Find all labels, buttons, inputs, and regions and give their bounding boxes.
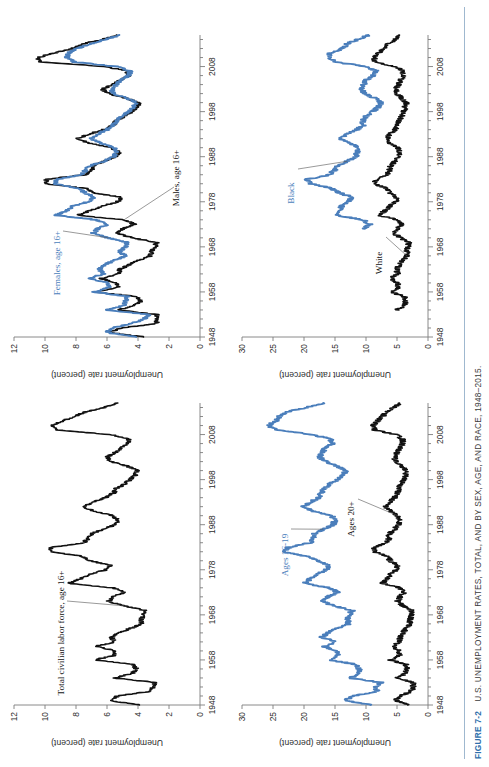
x-tick-label: 1958	[207, 650, 217, 669]
x-tick-label: 1968	[435, 237, 445, 256]
y-tick-label: 12	[9, 712, 19, 722]
plot-area-total: 0246810121948195819681978198819982008Tot…	[4, 393, 226, 751]
x-tick-label: 1968	[435, 605, 445, 624]
y-tick-label: 20	[299, 712, 309, 722]
x-tick-label: 1948	[435, 695, 445, 714]
x-tick-label: 1978	[207, 560, 217, 579]
x-tick-label: 1978	[207, 192, 217, 211]
y-tick-label: 6	[102, 712, 112, 717]
series-line-ages-20	[371, 403, 416, 705]
y-axis-title: Unemployment rate (percent)	[279, 370, 391, 380]
figure-caption-text: U.S. UNEMPLOYMENT RATES, TOTAL, AND BY S…	[473, 366, 483, 702]
x-tick-label: 1948	[435, 327, 445, 346]
y-tick-label: 0	[195, 344, 205, 349]
y-tick-label: 10	[40, 344, 50, 354]
chart-svg-total: 0246810121948195819681978198819982008Tot…	[4, 393, 226, 751]
y-tick-label: 10	[361, 344, 371, 354]
y-tick-label: 8	[71, 712, 81, 717]
y-tick-label: 15	[330, 712, 340, 722]
y-tick-label: 4	[133, 712, 143, 717]
y-tick-label: 5	[392, 712, 402, 717]
y-tick-label: 0	[195, 712, 205, 717]
series-annotation-label: Ages 20+	[346, 501, 356, 537]
x-tick-label: 1958	[435, 282, 445, 301]
series-annotation-label: White	[374, 252, 384, 274]
y-tick-label: 25	[268, 344, 278, 354]
y-tick-label: 2	[164, 712, 174, 717]
y-tick-label: 2	[164, 344, 174, 349]
x-tick-label: 1958	[435, 650, 445, 669]
x-tick-label: 1968	[207, 605, 217, 624]
chart-panel-race: 0510152025301948195819681978198819982008…	[232, 25, 454, 383]
plot-area-age: 0510152025301948195819681978198819982008…	[232, 393, 454, 751]
x-tick-label: 1978	[435, 560, 445, 579]
y-tick-label: 25	[268, 712, 278, 722]
x-tick-label: 2008	[207, 425, 217, 444]
y-tick-label: 5	[392, 344, 402, 349]
y-tick-label: 10	[361, 712, 371, 722]
chart-panel-age: 0510152025301948195819681978198819982008…	[232, 393, 454, 751]
y-tick-label: 30	[237, 344, 247, 354]
y-axis-title: Unemployment rate (percent)	[51, 738, 163, 748]
y-tick-label: 15	[330, 344, 340, 354]
y-axis-title: Unemployment rate (percent)	[51, 370, 163, 380]
figure-number: FIGURE 7-2	[473, 711, 483, 759]
x-tick-label: 1998	[207, 102, 217, 121]
y-tick-label: 0	[423, 344, 433, 349]
caption-divider	[464, 7, 465, 759]
plot-area-sex: 0246810121948195819681978198819982008Fem…	[4, 25, 226, 383]
x-tick-label: 2008	[435, 425, 445, 444]
x-tick-label: 1988	[207, 147, 217, 166]
rotated-page-container: 0246810121948195819681978198819982008Tot…	[0, 0, 489, 767]
figure-sheet: 0246810121948195819681978198819982008Tot…	[0, 0, 489, 767]
y-tick-label: 0	[423, 712, 433, 717]
x-tick-label: 1998	[435, 102, 445, 121]
figure-caption: FIGURE 7-2U.S. UNEMPLOYMENT RATES, TOTAL…	[473, 366, 483, 760]
series-annotation-label: Total civilian labor force, age 16+	[56, 571, 66, 696]
y-tick-label: 30	[237, 712, 247, 722]
y-axis-title: Unemployment rate (percent)	[279, 738, 391, 748]
series-annotation-label: Females, age 16+	[52, 231, 62, 296]
x-tick-label: 1988	[435, 147, 445, 166]
x-tick-label: 1988	[207, 515, 217, 534]
chart-panel-sex: 0246810121948195819681978198819982008Fem…	[4, 25, 226, 383]
series-annotation-label: Males, age 16+	[171, 150, 181, 206]
x-tick-label: 1998	[207, 470, 217, 489]
y-tick-label: 20	[299, 344, 309, 354]
chart-svg-sex: 0246810121948195819681978198819982008Fem…	[4, 25, 226, 383]
series-annotation-label: Black	[286, 182, 296, 204]
chart-panel-total: 0246810121948195819681978198819982008Tot…	[4, 393, 226, 751]
x-tick-label: 1988	[435, 515, 445, 534]
chart-svg-age: 0510152025301948195819681978198819982008…	[232, 393, 454, 751]
y-tick-label: 12	[9, 344, 19, 354]
x-tick-label: 2008	[207, 57, 217, 76]
x-tick-label: 1948	[207, 695, 217, 714]
y-tick-label: 8	[71, 344, 81, 349]
chart-svg-race: 0510152025301948195819681978198819982008…	[232, 25, 454, 383]
y-tick-label: 10	[40, 712, 50, 722]
x-tick-label: 1968	[207, 237, 217, 256]
x-tick-label: 1998	[435, 470, 445, 489]
y-tick-label: 6	[102, 344, 112, 349]
x-tick-label: 1958	[207, 282, 217, 301]
y-tick-label: 4	[133, 344, 143, 349]
series-annotation-label: Ages 16-19	[280, 533, 290, 576]
series-line-black	[305, 35, 383, 229]
x-tick-label: 1948	[207, 327, 217, 346]
plot-area-race: 0510152025301948195819681978198819982008…	[232, 25, 454, 383]
x-tick-label: 2008	[435, 57, 445, 76]
series-line-females-age-16	[54, 35, 151, 337]
x-tick-label: 1978	[435, 192, 445, 211]
chart-grid: 0246810121948195819681978198819982008Tot…	[0, 0, 455, 767]
